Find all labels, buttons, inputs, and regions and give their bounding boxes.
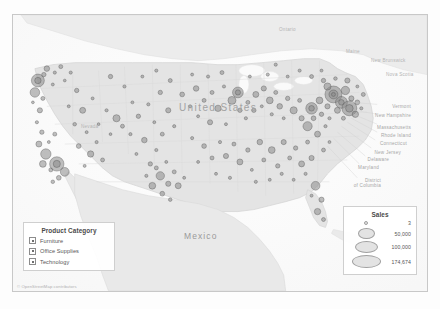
legend-item-office-supplies[interactable]: Office Supplies <box>29 248 109 255</box>
size-legend-item-50000-label: 50,000 <box>383 231 411 237</box>
furniture-color-swatch <box>29 237 36 244</box>
size-legend-item-min[interactable]: 3 <box>349 220 411 226</box>
size-mark-100000 <box>349 241 383 253</box>
sales-size-legend-title: Sales <box>349 211 411 218</box>
openstreetmap-attribution[interactable]: © OpenStreetMap contributors <box>17 284 77 289</box>
size-legend-item-100000-label: 100,000 <box>383 244 411 250</box>
product-category-legend[interactable]: Product Category Furniture Office Suppli… <box>23 222 115 272</box>
size-legend-item-max[interactable]: 174,674 <box>349 255 411 268</box>
size-mark-max <box>349 255 383 268</box>
product-category-legend-title: Product Category <box>29 227 109 234</box>
legend-item-technology[interactable]: Technology <box>29 258 109 265</box>
technology-color-swatch <box>29 258 36 265</box>
legend-item-furniture[interactable]: Furniture <box>29 237 109 244</box>
size-legend-item-max-label: 174,674 <box>383 259 411 265</box>
size-legend-item-100000[interactable]: 100,000 <box>349 241 411 253</box>
map-chart-screenshot: United States Mexico Ontario Nevada Main… <box>0 0 440 309</box>
legend-item-furniture-label: Furniture <box>40 238 63 244</box>
size-legend-item-50000[interactable]: 50,000 <box>349 228 411 239</box>
sales-size-legend[interactable]: Sales 3 50,000 100,000 <box>343 206 417 275</box>
size-mark-50000 <box>349 228 383 239</box>
size-legend-item-min-label: 3 <box>383 220 411 226</box>
legend-item-office-supplies-label: Office Supplies <box>40 248 79 254</box>
size-mark-min <box>349 221 383 225</box>
map-frame[interactable]: United States Mexico Ontario Nevada Main… <box>12 14 428 292</box>
legend-item-technology-label: Technology <box>40 259 69 265</box>
office-supplies-color-swatch <box>29 248 36 255</box>
